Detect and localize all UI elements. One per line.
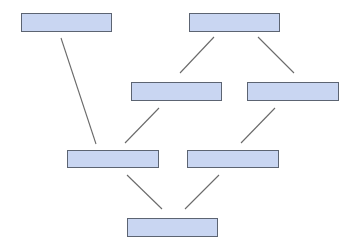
edge-n4-n6 — [241, 108, 275, 143]
edge-n2-n4 — [258, 37, 294, 73]
edge-n6-n7 — [185, 175, 219, 209]
node-6 — [187, 150, 279, 168]
edge-n5-n7 — [127, 175, 162, 209]
edges-layer — [0, 0, 356, 250]
node-1 — [21, 13, 112, 32]
node-5 — [67, 150, 159, 168]
node-2 — [189, 13, 280, 32]
edge-n1-n5 — [61, 38, 96, 144]
edge-n3-n5 — [125, 108, 159, 143]
edge-n2-n3 — [180, 37, 214, 73]
node-3 — [131, 82, 222, 101]
node-7 — [127, 218, 218, 237]
diagram-canvas — [0, 0, 356, 250]
node-4 — [247, 82, 339, 101]
